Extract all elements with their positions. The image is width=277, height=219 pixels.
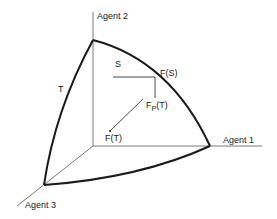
agent3-axis xyxy=(17,146,93,206)
region-t-label: T xyxy=(58,84,64,94)
fpt-label-tail: (T) xyxy=(156,100,168,110)
frontier-curve-agent2-agent3 xyxy=(44,40,93,185)
agent2-label: Agent 2 xyxy=(97,11,128,21)
region-s-label: S xyxy=(115,59,121,69)
bargaining-diagram: Agent 2 Agent 1 Agent 3 S T F(S) FP(T) F… xyxy=(0,0,277,219)
agent1-label: Agent 1 xyxy=(223,135,254,145)
agent3-label: Agent 3 xyxy=(25,200,56,210)
ft-to-fpt-segment xyxy=(110,99,143,131)
fpt-label: FP(T) xyxy=(146,100,168,112)
ft-label: F(T) xyxy=(105,133,122,143)
ft-point xyxy=(109,130,111,132)
fs-label: F(S) xyxy=(160,68,178,78)
